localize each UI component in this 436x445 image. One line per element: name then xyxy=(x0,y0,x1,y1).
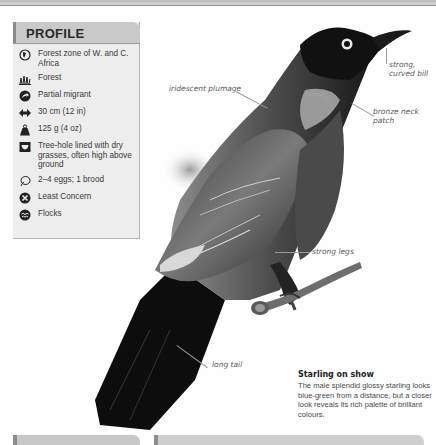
legs-leader-line xyxy=(275,252,310,253)
profile-header-accent xyxy=(13,22,16,43)
profile-box: PROFILE Forest zone of W. and C. Africa … xyxy=(13,22,140,239)
migration-arrow-icon xyxy=(19,90,31,102)
profile-item-text: 125 g (4 oz) xyxy=(38,124,134,134)
profile-header: PROFILE xyxy=(13,22,140,44)
callout-bill-line2: curved bill xyxy=(389,69,428,78)
length-arrows-icon xyxy=(19,107,31,119)
callout-bill: strong, curved bill xyxy=(389,60,428,78)
profile-item-weight: 125 g (4 oz) xyxy=(13,124,140,136)
profile-item-text: Tree-hole lined with dry grasses, often … xyxy=(38,141,134,170)
profile-item-social: Flocks xyxy=(13,209,140,221)
social-flock-icon xyxy=(19,209,31,221)
caption-title: Starling on show xyxy=(298,370,436,380)
profile-item-text: 2–4 eggs; 1 brood xyxy=(38,175,134,185)
profile-title: PROFILE xyxy=(26,26,84,41)
callout-legs: strong legs xyxy=(312,247,354,256)
profile-item-migration: Partial migrant xyxy=(13,90,140,102)
callout-neck: bronze neck patch xyxy=(373,107,419,125)
callout-neck-line2: patch xyxy=(373,116,419,125)
callout-tail: long tail xyxy=(212,360,242,369)
profile-item-text: Forest zone of W. and C. Africa xyxy=(38,49,134,68)
profile-item-nest: Tree-hole lined with dry grasses, often … xyxy=(13,141,140,170)
profile-item-status: Least Concern xyxy=(13,192,140,204)
conservation-status-icon xyxy=(19,192,31,204)
callout-bill-line1: strong, xyxy=(389,60,428,69)
profile-item-text: Least Concern xyxy=(38,192,134,202)
profile-item-text: 30 cm (12 in) xyxy=(38,107,134,117)
next-section-tab-left xyxy=(13,435,140,445)
profile-item-eggs: 2–4 eggs; 1 brood xyxy=(13,175,140,187)
egg-icon xyxy=(19,175,31,187)
nest-icon xyxy=(19,141,31,153)
globe-distribution-icon xyxy=(19,49,31,61)
profile-list: Forest zone of W. and C. Africa Forest P… xyxy=(13,49,140,226)
profile-item-text: Partial migrant xyxy=(38,90,134,100)
tab-accent xyxy=(154,435,158,445)
next-section-tab-right xyxy=(154,435,424,445)
caption-body: The male splendid glossy starling looks … xyxy=(298,381,436,420)
profile-item-distribution: Forest zone of W. and C. Africa xyxy=(13,49,140,68)
tab-accent xyxy=(13,435,17,445)
bill-leader-line xyxy=(386,48,387,64)
profile-item-length: 30 cm (12 in) xyxy=(13,107,140,119)
callout-neck-line1: bronze neck xyxy=(373,107,419,116)
callout-plumage: iridescent plumage xyxy=(169,84,241,93)
caption-block: Starling on show The male splendid gloss… xyxy=(298,370,436,420)
habitat-grass-icon xyxy=(19,73,31,85)
profile-item-habitat: Forest xyxy=(13,73,140,85)
profile-item-text: Flocks xyxy=(38,209,134,219)
profile-item-text: Forest xyxy=(38,73,134,83)
weight-icon xyxy=(19,124,31,136)
